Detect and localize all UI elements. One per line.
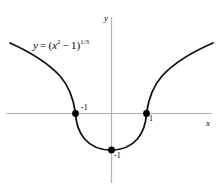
y-tick-label-negative-one: -1 — [114, 152, 121, 160]
x-tick-label-one: 1 — [149, 115, 153, 123]
curve-left-branch — [10, 43, 76, 113]
equation-exponent: 1/3 — [80, 38, 89, 45]
x-tick-label-negative-one: -1 — [81, 104, 88, 112]
curve-right-branch — [147, 43, 214, 113]
marked-point-neg-one-zero — [72, 110, 79, 117]
equation-annotation: y = (x2 − 1)1/3 — [33, 39, 89, 51]
y-axis-label: y — [104, 14, 108, 23]
function-graph-figure: y x -1 1 -1 y = (x2 − 1)1/3 — [0, 0, 219, 187]
graph-canvas — [0, 0, 219, 187]
x-axis-label: x — [206, 119, 210, 128]
